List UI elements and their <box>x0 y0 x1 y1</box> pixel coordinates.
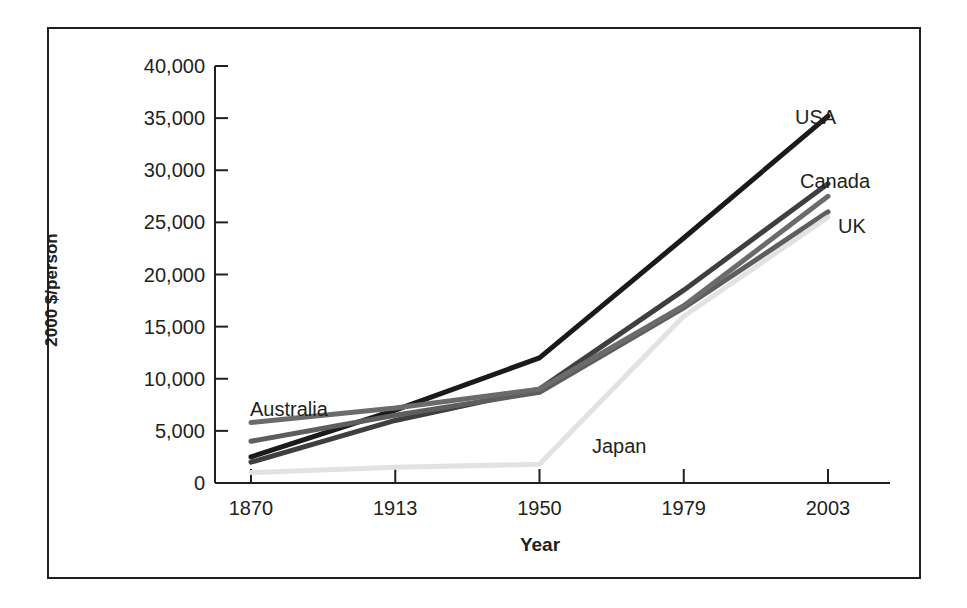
series-line-canada <box>251 184 828 462</box>
series-line-japan <box>251 217 828 472</box>
series-label-uk: UK <box>838 215 866 238</box>
series-label-japan: Japan <box>592 435 647 458</box>
y-tick-label: 0 <box>60 472 205 495</box>
x-tick-label: 1913 <box>373 497 418 520</box>
x-tick-label: 1950 <box>517 497 562 520</box>
series-line-usa <box>251 116 828 457</box>
y-tick-label: 15,000 <box>60 315 205 338</box>
figure-canvas: 05,00010,00015,00020,00025,00030,00035,0… <box>0 0 967 608</box>
series-group <box>251 116 828 473</box>
y-tick-label: 25,000 <box>60 211 205 234</box>
x-tick-label: 2003 <box>806 497 851 520</box>
y-tick-label: 30,000 <box>60 159 205 182</box>
x-tick-label: 1870 <box>229 497 274 520</box>
y-tick-label: 20,000 <box>60 263 205 286</box>
series-label-canada: Canada <box>800 170 870 193</box>
series-line-australia <box>251 196 828 422</box>
y-tick-label: 10,000 <box>60 367 205 390</box>
series-label-usa: USA <box>795 106 836 129</box>
y-tick-label: 5,000 <box>60 419 205 442</box>
x-tick-label: 1979 <box>662 497 707 520</box>
x-axis-title: Year <box>520 534 560 556</box>
y-axis-title: 2000 $/person <box>42 233 62 346</box>
y-tick-label: 35,000 <box>60 107 205 130</box>
y-tick-label: 40,000 <box>60 55 205 78</box>
series-label-australia: Australia <box>250 398 328 421</box>
